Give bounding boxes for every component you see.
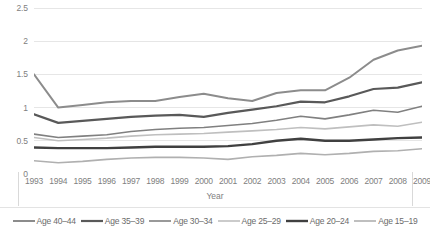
x-tick-label-13: 2006 xyxy=(340,176,358,186)
legend-item-4[interactable]: Age 20–24 xyxy=(286,216,349,226)
legend-line-icon xyxy=(286,217,308,225)
legend-item-3[interactable]: Age 25–29 xyxy=(218,216,281,226)
legend-item-2[interactable]: Age 30–34 xyxy=(149,216,212,226)
x-tick-label-3: 1996 xyxy=(98,176,116,186)
x-axis-title: Year xyxy=(0,191,430,201)
line-chart: 00.511.522.5 199319941995199619971998199… xyxy=(0,0,430,233)
x-tick-label-14: 2007 xyxy=(364,176,382,186)
y-tick-label-3: 1.5 xyxy=(16,69,28,79)
legend-item-1[interactable]: Age 35–39 xyxy=(81,216,144,226)
legend-label-5: Age 15–19 xyxy=(378,216,417,226)
y-tick-label-4: 2 xyxy=(23,36,28,46)
x-tick-label-16: 2009 xyxy=(413,176,430,186)
legend-item-0[interactable]: Age 40–44 xyxy=(13,216,76,226)
x-axis: 1993199419951996199719981999200020012002… xyxy=(34,176,422,190)
series-line-0 xyxy=(34,46,422,108)
legend-label-3: Age 25–29 xyxy=(242,216,281,226)
plot-svg xyxy=(34,8,422,174)
x-tick-label-8: 2001 xyxy=(219,176,237,186)
x-tick-label-0: 1993 xyxy=(25,176,43,186)
y-tick-label-1: 0.5 xyxy=(16,136,28,146)
x-tick-label-9: 2002 xyxy=(243,176,261,186)
legend-line-icon xyxy=(354,217,376,225)
x-tick-label-2: 1995 xyxy=(73,176,91,186)
x-tick-label-4: 1997 xyxy=(122,176,140,186)
series-line-5 xyxy=(34,149,422,163)
legend-label-4: Age 20–24 xyxy=(310,216,349,226)
x-tick-label-6: 1999 xyxy=(170,176,188,186)
x-tick-label-1: 1994 xyxy=(49,176,67,186)
x-tick-label-7: 2000 xyxy=(195,176,213,186)
legend-label-1: Age 35–39 xyxy=(105,216,144,226)
series-line-1 xyxy=(34,82,422,123)
x-tick-label-10: 2003 xyxy=(267,176,285,186)
y-axis: 00.511.522.5 xyxy=(0,8,32,174)
legend-item-5[interactable]: Age 15–19 xyxy=(354,216,417,226)
plot-area xyxy=(34,8,422,174)
legend-line-icon xyxy=(149,217,171,225)
legend-line-icon xyxy=(218,217,240,225)
legend-label-2: Age 30–34 xyxy=(173,216,212,226)
y-tick-label-2: 1 xyxy=(23,103,28,113)
y-tick-label-5: 2.5 xyxy=(16,3,28,13)
legend-line-icon xyxy=(13,217,35,225)
x-tick-label-5: 1998 xyxy=(146,176,164,186)
x-tick-label-15: 2008 xyxy=(389,176,407,186)
legend-label-0: Age 40–44 xyxy=(37,216,76,226)
legend: Age 40–44Age 35–39Age 30–34Age 25–29Age … xyxy=(0,207,430,233)
x-tick-label-11: 2004 xyxy=(292,176,310,186)
x-tick-label-12: 2005 xyxy=(316,176,334,186)
legend-line-icon xyxy=(81,217,103,225)
